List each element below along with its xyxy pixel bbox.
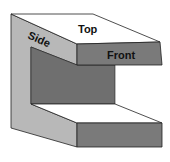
lower-front-face — [77, 123, 162, 147]
label-top: Top — [78, 23, 98, 35]
label-front: Front — [107, 49, 135, 61]
c-shape-diagram: Top Side Front — [0, 0, 170, 162]
